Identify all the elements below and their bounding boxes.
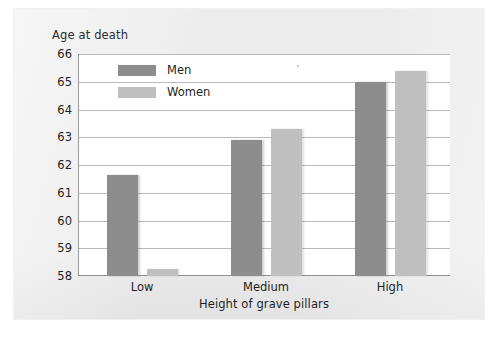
- y-axis-title: Age at death: [52, 28, 128, 42]
- legend-swatch-men: [118, 65, 156, 76]
- y-axis-tick-labels: 585960616263646566: [46, 54, 72, 276]
- y-axis-tick-label: 59: [57, 241, 72, 255]
- legend-swatch-women: [118, 87, 156, 98]
- y-axis-tick-label: 58: [57, 269, 72, 283]
- legend-item-women: Women: [118, 82, 238, 102]
- y-axis-tick-label: 63: [57, 130, 72, 144]
- legend-label-men: Men: [167, 63, 191, 77]
- x-axis-tick-label-low: Low: [131, 280, 154, 294]
- scanned-page: Age at death 585960616263646566 LowMediu…: [0, 0, 497, 337]
- y-axis-tick-label: 61: [57, 186, 72, 200]
- legend-label-women: Women: [167, 85, 210, 99]
- chart-legend: MenWomen: [118, 60, 238, 104]
- gridline: [79, 193, 450, 194]
- gridline: [79, 165, 450, 166]
- x-axis-tick-labels: LowMediumHigh: [78, 280, 450, 296]
- x-axis-tick-label-medium: Medium: [243, 280, 289, 294]
- y-axis-tick-label: 62: [57, 158, 72, 172]
- y-axis-tick-label: 66: [57, 47, 72, 61]
- y-axis-tick-label: 60: [57, 214, 72, 228]
- scan-speck: [297, 65, 299, 67]
- gridline: [79, 54, 450, 55]
- x-axis-title: Height of grave pillars: [78, 297, 450, 311]
- x-axis-tick-label-high: High: [377, 280, 403, 294]
- bar-chart-figure: Age at death 585960616263646566 LowMediu…: [0, 0, 497, 337]
- gridline: [79, 221, 450, 222]
- y-axis-tick-label: 64: [57, 103, 72, 117]
- gridline: [79, 248, 450, 249]
- gridline: [79, 137, 450, 138]
- gridline: [79, 110, 450, 111]
- legend-item-men: Men: [118, 60, 238, 80]
- y-axis-tick-label: 65: [57, 75, 72, 89]
